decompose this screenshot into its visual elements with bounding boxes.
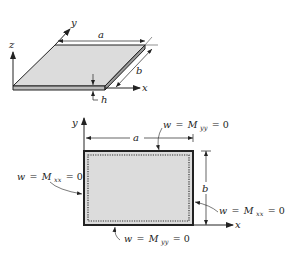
plate-front-edge — [13, 86, 105, 90]
y-axis-label-plan: y — [71, 117, 78, 128]
bc-top-label: w = M yy = 0 — [163, 119, 229, 132]
bc-left-label: w = M xx = 0 — [17, 171, 83, 184]
extension-line — [145, 37, 152, 45]
bc-bottom-label: w = M yy = 0 — [124, 233, 190, 246]
z-axis-label-3d: z — [8, 39, 15, 50]
plate-3d-view: z y x a b h — [8, 17, 158, 105]
bc-top-leader — [158, 128, 162, 150]
bc-right-label: w = M xx = 0 — [219, 205, 285, 218]
y-axis-3d — [55, 29, 70, 45]
x-axis-label-plan: x — [235, 219, 241, 230]
x-axis-label-3d: x — [142, 82, 148, 93]
thickness-label-3d: h — [101, 94, 107, 105]
dim-b-label-plan: b — [202, 183, 208, 194]
plate-plan-view: y x a b w = M yy = 0 w = M xx = 0 — [17, 117, 285, 246]
dim-a-label-3d: a — [98, 29, 104, 40]
bc-bottom-leader — [115, 227, 120, 240]
dim-b-label-3d: b — [136, 65, 142, 76]
plate-diagram: z y x a b h y x a — [0, 0, 291, 259]
plate-rectangle — [84, 151, 193, 225]
dim-a-label-plan: a — [133, 132, 139, 143]
y-axis-label-3d: y — [70, 17, 77, 28]
bc-right-leader — [195, 202, 218, 212]
